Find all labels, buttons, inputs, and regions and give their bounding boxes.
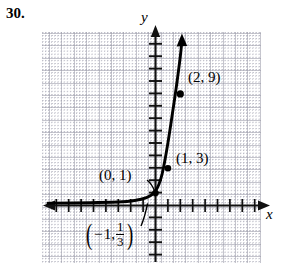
point-label-1-3: (1, 3) [176, 150, 209, 167]
data-point-1-3 [165, 165, 172, 172]
leader-line-neg1-third [141, 203, 148, 226]
fraction-numerator: 1 [116, 220, 125, 233]
point-label-neg1-one-third: ( − 1, 1 3 ) [84, 219, 135, 249]
paren-open: ( [86, 219, 92, 249]
y-axis-up-arrow [151, 25, 160, 37]
neg-one-text: − 1, [94, 226, 115, 243]
point-label-2-9: (2, 9) [188, 69, 221, 86]
point-label-0-1: (0, 1) [99, 167, 132, 184]
paren-close: ) [127, 219, 133, 249]
figure-canvas: 30. [0, 0, 286, 271]
fraction-one-third: 1 3 [116, 220, 125, 248]
data-point-0-1 [152, 190, 159, 197]
y-axis-label: y [141, 9, 148, 26]
curve-arrowhead [177, 34, 188, 47]
leader-line-0-1 [147, 180, 155, 191]
data-point-2-9 [177, 90, 184, 97]
coordinate-plot [0, 0, 286, 271]
fraction-denominator: 3 [116, 235, 125, 248]
x-axis-label: x [266, 206, 273, 223]
